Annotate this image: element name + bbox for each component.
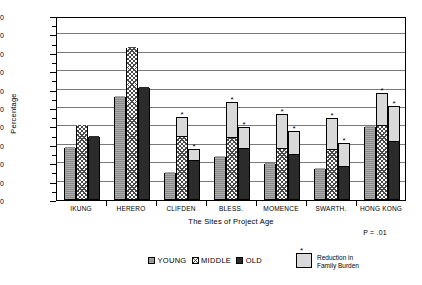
bar-young[interactable]	[264, 164, 276, 200]
asterisk-icon: *	[342, 138, 345, 143]
legend-swatch	[148, 257, 155, 264]
bar-middle[interactable]: *	[176, 117, 188, 200]
bar-old[interactable]: *	[238, 127, 250, 200]
bar-segment-base	[377, 124, 387, 199]
bar-segment-reduction	[189, 150, 199, 160]
asterisk-icon: *	[330, 113, 333, 118]
asterisk-icon: *	[392, 101, 395, 106]
y-tick-label: 20	[0, 161, 4, 168]
bar-segment-reduction	[277, 115, 287, 149]
bar-young[interactable]	[364, 127, 376, 200]
bar-middle[interactable]	[76, 126, 88, 200]
bar-segment-base	[239, 147, 249, 199]
bar-segment-reduction	[227, 103, 237, 138]
bar-segment-base	[139, 87, 149, 199]
bar-young[interactable]	[214, 157, 226, 200]
bar-group: **	[257, 18, 307, 200]
legend-label: YOUNG	[158, 256, 187, 265]
y-tick-label: 70	[0, 69, 4, 76]
bar-segment-base	[277, 147, 287, 199]
bar-segment-base	[365, 126, 375, 199]
bar-segment-reduction	[327, 119, 337, 150]
legend-item-old[interactable]: OLD	[236, 256, 262, 265]
bar-old[interactable]: *	[388, 106, 400, 200]
p-value-annotation: P = .01	[330, 229, 420, 236]
asterisk-icon: *	[180, 112, 183, 117]
bar-segment-base	[77, 125, 87, 199]
bar-segment-base	[189, 159, 199, 199]
x-axis-title: The Sites of Project Age	[56, 217, 406, 226]
bar-segment-reduction	[389, 107, 399, 142]
bar-group: **	[207, 18, 257, 200]
plot-area: **********	[56, 17, 406, 201]
asterisk-icon: *	[230, 97, 233, 102]
y-tick-label: 0	[0, 198, 4, 205]
legend-reduction-label: Reduction in Family Burden	[317, 253, 359, 269]
bar-group	[107, 18, 157, 200]
x-tick-label: HONG KONG	[360, 205, 402, 212]
asterisk-icon: *	[192, 144, 195, 149]
bar-segment-reduction	[177, 118, 187, 136]
bar-middle[interactable]	[126, 48, 138, 200]
asterisk-icon: *	[242, 122, 245, 127]
bar-segment-base	[327, 148, 337, 199]
x-tick-label: CLIFDEN	[166, 205, 195, 212]
bar-segment-base	[127, 47, 137, 199]
bar-segment-base	[65, 147, 75, 199]
legend-reduction-line2: Family Burden	[317, 262, 359, 270]
bar-middle[interactable]: *	[276, 114, 288, 200]
legend-item-middle[interactable]: MIDDLE	[192, 256, 232, 265]
legend-swatch	[192, 257, 199, 264]
bar-segment-reduction	[239, 128, 249, 148]
bar-segment-base	[227, 136, 237, 199]
bar-young[interactable]	[64, 148, 76, 200]
bar-middle[interactable]: *	[226, 102, 238, 200]
bar-segment-base	[165, 172, 175, 199]
bar-middle[interactable]: *	[326, 118, 338, 200]
bar-group: **	[357, 18, 407, 200]
bar-segment-base	[265, 163, 275, 199]
legend-reduction-line1: Reduction in	[317, 254, 359, 262]
y-tick-label: 30	[0, 142, 4, 149]
bar-young[interactable]	[164, 173, 176, 200]
bar-old[interactable]: *	[288, 131, 300, 200]
bar-chart-figure: Percentage 0102030405060708090100 ******…	[0, 0, 422, 285]
bar-segment-reduction	[339, 144, 349, 167]
bar-group	[57, 18, 107, 200]
y-axis: 0102030405060708090100	[0, 0, 56, 285]
x-tick-label: SWARTH.	[315, 205, 346, 212]
x-tick-label: IKUNG	[70, 205, 92, 212]
asterisk-icon: *	[280, 109, 283, 114]
bar-young[interactable]	[114, 97, 126, 200]
bar-young[interactable]	[314, 169, 326, 200]
bars-container: **********	[57, 18, 405, 200]
legend-item-young[interactable]: YOUNG	[148, 256, 187, 265]
y-tick-label: 60	[0, 87, 4, 94]
y-tick-label: 90	[0, 32, 4, 39]
bar-segment-base	[389, 140, 399, 199]
bar-old[interactable]	[138, 88, 150, 200]
bar-old[interactable]: *	[188, 149, 200, 200]
y-tick-label: 80	[0, 50, 4, 57]
x-tick-label: MOMENCE	[263, 205, 298, 212]
legend-reduction: * Reduction in Family Burden	[296, 253, 359, 269]
bar-segment-base	[115, 96, 125, 199]
bar-segment-base	[177, 135, 187, 199]
x-tick-label: BLESS.	[219, 205, 243, 212]
bar-segment-reduction	[289, 132, 299, 155]
bar-group: **	[307, 18, 357, 200]
bar-old[interactable]: *	[338, 143, 350, 200]
legend-label: MIDDLE	[201, 256, 231, 265]
bar-group: **	[157, 18, 207, 200]
legend-reduction-swatch: *	[296, 253, 312, 268]
bar-segment-base	[339, 165, 349, 199]
legend-swatch	[236, 257, 243, 264]
bar-middle[interactable]: *	[376, 93, 388, 200]
x-tick-label: HERERO	[116, 205, 145, 212]
bar-segment-base	[315, 168, 325, 199]
y-tick-label: 50	[0, 106, 4, 113]
legend: YOUNGMIDDLEOLD	[148, 256, 262, 265]
y-tick-label: 40	[0, 124, 4, 131]
y-tick-label: 100	[0, 14, 4, 21]
bar-old[interactable]	[88, 137, 100, 200]
